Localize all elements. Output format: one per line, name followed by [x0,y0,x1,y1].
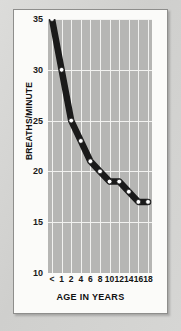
y-axis-tick-label: 35 [33,15,43,24]
x-axis-tick-label: 1 [59,275,64,284]
x-axis-tick-label: 18 [143,275,152,284]
y-axis-tick-label: 30 [33,65,43,74]
x-axis-ticks: <124681012141618 [48,275,152,287]
data-point-marker [126,189,131,194]
x-axis-tick-label: < [50,275,55,284]
x-axis-tick-label: 10 [105,275,114,284]
data-point-marker [98,169,103,174]
x-axis-title: AGE IN YEARS [14,292,167,302]
x-axis-tick-label: 4 [78,275,83,284]
plot-area [48,19,152,273]
x-axis-tick-label: 16 [134,275,143,284]
data-point-marker [107,179,112,184]
y-axis-tick-label: 15 [33,218,43,227]
figure-root: 353025201510 BREATHS/MINUTE <12468101214… [0,0,181,331]
data-point-marker [69,118,74,123]
data-point-marker [136,199,141,204]
y-axis-tick-label: 25 [33,116,43,125]
data-point-marker [117,179,122,184]
x-axis-tick-label: 8 [98,275,103,284]
x-axis-tick-label: 6 [88,275,93,284]
data-point-marker [50,19,55,21]
breaths-per-minute-series [48,19,152,273]
chart-card: 353025201510 BREATHS/MINUTE <12468101214… [13,9,168,314]
y-axis-tick-label: 10 [33,269,43,278]
data-point-marker [146,199,151,204]
data-point-marker [78,139,83,144]
y-axis-title: BREATHS/MINUTE [24,61,34,181]
data-point-marker [88,159,93,164]
x-axis-tick-label: 2 [69,275,74,284]
data-point-marker [59,67,64,72]
x-axis-tick-label: 12 [114,275,123,284]
x-axis-tick-label: 14 [124,275,133,284]
y-axis-tick-label: 20 [33,167,43,176]
series-line [52,19,148,202]
series-markers [50,19,151,204]
